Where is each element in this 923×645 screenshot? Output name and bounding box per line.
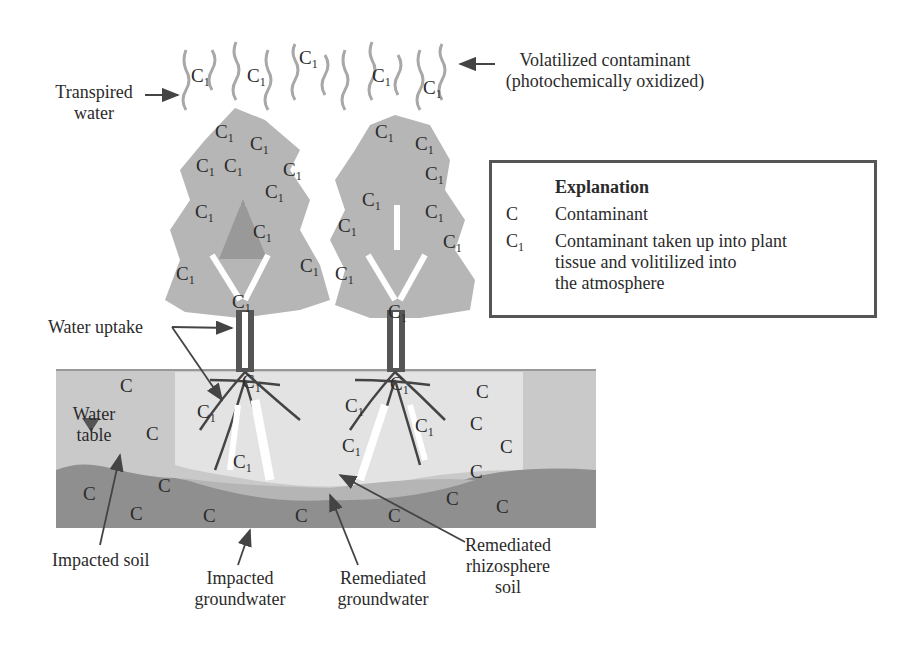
label-water-uptake: Water uptake <box>48 317 143 338</box>
legend-symbol-c: C <box>506 204 518 225</box>
label-line: Transpired <box>40 82 148 103</box>
label-line: table <box>66 425 122 446</box>
label-line: Water <box>66 404 122 425</box>
label-line: Impacted <box>180 568 300 589</box>
legend-text-line: the atmosphere <box>555 273 787 294</box>
transpiration-wisps <box>183 42 445 110</box>
label-impacted-soil: Impacted soil <box>52 550 149 571</box>
svg-text:C1: C1 <box>283 159 302 183</box>
svg-text:C1: C1 <box>299 47 318 71</box>
label-line: (photochemically oxidized) <box>500 71 710 92</box>
legend-symbol-text: C <box>506 231 518 251</box>
label-volatilized-contaminant: Volatilized contaminant (photochemically… <box>500 50 710 92</box>
svg-text:C: C <box>203 505 216 526</box>
legend-text-line: Contaminant taken up into plant <box>555 231 787 252</box>
svg-text:C: C <box>146 423 159 444</box>
label-remediated-rhizosphere-soil: Remediated rhizosphere soil <box>458 535 558 598</box>
legend-box: Explanation C Contaminant C1 Contaminant… <box>489 160 877 318</box>
legend-symbol-subscript: 1 <box>518 240 524 254</box>
svg-text:C: C <box>120 375 133 396</box>
svg-text:C: C <box>295 505 308 526</box>
label-line: Remediated <box>323 568 443 589</box>
svg-text:C: C <box>496 496 509 517</box>
svg-text:C: C <box>83 483 96 504</box>
label-remediated-groundwater: Remediated groundwater <box>323 568 443 610</box>
label-line: water <box>40 103 148 124</box>
svg-text:C: C <box>470 413 483 434</box>
legend-text-contaminant: Contaminant <box>555 204 648 225</box>
legend-symbol-c1: C1 <box>506 231 524 255</box>
label-water-table: Water table <box>66 404 122 446</box>
svg-text:C1: C1 <box>372 65 391 89</box>
svg-text:C: C <box>470 461 483 482</box>
label-line: groundwater <box>180 589 300 610</box>
legend-title: Explanation <box>555 177 649 198</box>
svg-text:C: C <box>446 488 459 509</box>
svg-text:C1: C1 <box>191 65 210 89</box>
label-impacted-groundwater: Impacted groundwater <box>180 568 300 610</box>
legend-text-line: tissue and volitilized into <box>555 252 787 273</box>
label-line: groundwater <box>323 589 443 610</box>
svg-text:C: C <box>130 503 143 524</box>
label-transpired-water: Transpired water <box>40 82 148 124</box>
legend-symbol-text: C <box>506 204 518 224</box>
svg-text:C1: C1 <box>423 77 442 101</box>
legend-text-contaminant-plant: Contaminant taken up into plant tissue a… <box>555 231 787 294</box>
svg-text:C: C <box>500 436 513 457</box>
svg-text:C: C <box>158 475 171 496</box>
label-line: Remediated <box>458 535 558 556</box>
label-line: rhizosphere <box>458 556 558 577</box>
svg-text:C: C <box>476 381 489 402</box>
label-line: soil <box>458 577 558 598</box>
label-line: Volatilized contaminant <box>500 50 710 71</box>
svg-text:C1: C1 <box>247 65 266 89</box>
svg-text:C: C <box>388 505 401 526</box>
